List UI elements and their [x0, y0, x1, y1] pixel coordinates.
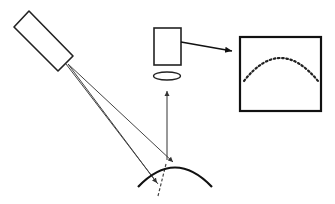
- light-source: [14, 11, 73, 71]
- camera: [154, 28, 181, 65]
- curved-surface: [138, 168, 212, 188]
- incident-rays: [66, 64, 173, 184]
- diagram-svg: [0, 0, 335, 204]
- display-screen: [240, 37, 321, 111]
- lens: [154, 72, 181, 80]
- diagram-canvas: [0, 0, 335, 204]
- camera-to-display-arrow: [181, 42, 232, 51]
